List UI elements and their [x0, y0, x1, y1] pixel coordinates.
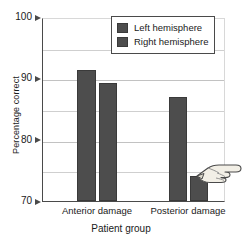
gridline-80: [43, 142, 224, 143]
legend-item-right-hemisphere: Right hemisphere: [117, 35, 208, 49]
y-tick-arrow-icon: [35, 15, 41, 21]
y-tick-label-100: 100: [15, 12, 32, 22]
bar-posterior-right-hemisphere: [190, 176, 208, 201]
bar-anterior-left-hemisphere: [77, 70, 96, 201]
y-axis-title: Percentage correct: [11, 55, 21, 175]
y-tick-arrow-icon: [35, 76, 41, 82]
gridline-85: [43, 111, 224, 112]
y-tick-arrow-icon: [35, 199, 41, 205]
bar-posterior-left-hemisphere: [169, 97, 187, 201]
y-tick-label-80: 80: [21, 135, 32, 145]
y-tick-arrow-icon: [35, 137, 41, 143]
legend-label-right: Right hemisphere: [134, 37, 208, 47]
gridline-90: [43, 80, 224, 81]
gridline-75: [43, 172, 224, 173]
legend: Left hemisphere Right hemisphere: [111, 16, 215, 54]
x-tick-label-posterior: Posterior damage: [133, 206, 242, 216]
y-tick-label-70: 70: [21, 196, 32, 206]
legend-swatch-icon: [117, 37, 128, 47]
x-axis-title: Patient group: [0, 224, 242, 234]
y-tick-label-90: 90: [21, 73, 32, 83]
legend-swatch-icon: [117, 23, 128, 33]
bar-chart-figure: Percentage correct 100 90 80 70 Left hem…: [0, 0, 242, 246]
bar-anterior-right-hemisphere: [99, 83, 117, 201]
legend-item-left-hemisphere: Left hemisphere: [117, 21, 208, 35]
legend-label-left: Left hemisphere: [134, 23, 202, 33]
